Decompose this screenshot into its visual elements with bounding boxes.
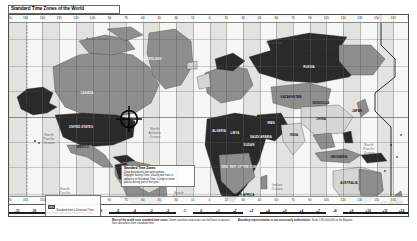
utc-offset-8: -3 bbox=[150, 205, 153, 216]
longitude-tick-top-23: 165 bbox=[391, 15, 396, 22]
longitude-tick-top-1: 165 bbox=[23, 15, 28, 22]
longitude-tick-bottom-24: 180 bbox=[407, 197, 409, 204]
utc-offset-23: +12 bbox=[399, 205, 405, 216]
utc-offset-0: -11 bbox=[15, 205, 20, 216]
utc-offset-10: -1 bbox=[183, 205, 186, 216]
longitude-tick-bottom-8: 60 bbox=[141, 197, 145, 204]
longitude-tick-top-10: 30 bbox=[174, 15, 178, 22]
longitude-tick-top-8: 60 bbox=[141, 15, 145, 22]
utc-offset-16: +5 bbox=[283, 205, 287, 216]
longitude-tick-bottom-6: 90 bbox=[107, 197, 111, 204]
longitude-tick-top-18: 90 bbox=[308, 15, 312, 22]
longitude-tick-bottom-20: 120 bbox=[340, 197, 345, 204]
longitude-tick-top-5: 105 bbox=[90, 15, 95, 22]
longitude-tick-bottom-22: 150 bbox=[374, 197, 379, 204]
legend-swatch-box: Standard time = Universal Time bbox=[45, 195, 101, 217]
longitude-tick-top-11: 15 bbox=[191, 15, 195, 22]
map-legend: Standard Time Zones Zone boundaries are … bbox=[121, 165, 195, 187]
footnote-right: Boundary representation is not necessari… bbox=[238, 219, 368, 222]
utc-offset-15: +4 bbox=[266, 205, 270, 216]
longitude-tick-bottom-23: 165 bbox=[391, 197, 396, 204]
longitude-tick-top-7: 75 bbox=[124, 15, 128, 22]
longitude-tick-top-14: 30 bbox=[241, 15, 245, 22]
utc-offset-13: +2 bbox=[233, 205, 237, 216]
longitude-tick-top-15: 45 bbox=[258, 15, 262, 22]
world-map[interactable]: Arctic OceanNorth Pacific OceanNorth Atl… bbox=[8, 14, 409, 217]
longitude-tick-top-16: 60 bbox=[275, 15, 279, 22]
international-date-line-icon bbox=[9, 15, 409, 217]
footnote-left: Most of the world uses standard time zon… bbox=[112, 219, 232, 226]
longitude-tick-bottom-11: 15 bbox=[191, 197, 195, 204]
legend-line-3: places during part of the year. bbox=[124, 181, 192, 184]
footnote-right-text: Scale 1:85,000,000 at the Equator. bbox=[312, 219, 353, 222]
longitude-tick-bottom-21: 135 bbox=[357, 197, 362, 204]
utc-offset-14: +3 bbox=[249, 205, 253, 216]
longitude-tick-bottom-0: 180 bbox=[8, 197, 12, 204]
longitude-ticks-top: 1801651501351201059075604530150153045607… bbox=[9, 15, 408, 23]
page-title: Standard Time Zones of the World bbox=[11, 7, 84, 12]
longitude-tick-top-19: 105 bbox=[324, 15, 329, 22]
longitude-tick-top-2: 150 bbox=[40, 15, 45, 22]
longitude-tick-top-24: 180 bbox=[407, 15, 409, 22]
utc-offset-17: +6 bbox=[299, 205, 303, 216]
longitude-tick-top-21: 135 bbox=[357, 15, 362, 22]
utc-offset-12: +1 bbox=[216, 205, 220, 216]
footnote-right-bold: Boundary representation is not necessari… bbox=[238, 219, 311, 222]
legend-swatch-icon bbox=[48, 205, 55, 209]
utc-offset-18: +7 bbox=[316, 205, 320, 216]
longitude-tick-bottom-15: 45 bbox=[258, 197, 262, 204]
crosshair-marker[interactable] bbox=[116, 106, 142, 132]
longitude-tick-top-12: 0 bbox=[209, 15, 211, 22]
longitude-tick-top-20: 120 bbox=[340, 15, 345, 22]
longitude-tick-top-22: 150 bbox=[374, 15, 379, 22]
longitude-tick-top-9: 45 bbox=[158, 15, 162, 22]
utc-offset-21: +10 bbox=[365, 205, 371, 216]
longitude-tick-bottom-13: 15 bbox=[224, 197, 228, 204]
utc-offset-6: -5 bbox=[116, 205, 119, 216]
legend-swatch-caption: Standard time = Universal Time bbox=[56, 209, 94, 212]
longitude-tick-bottom-18: 90 bbox=[308, 197, 312, 204]
longitude-tick-top-6: 90 bbox=[107, 15, 111, 22]
utc-offset-11: 0 bbox=[200, 205, 202, 216]
longitude-tick-bottom-12: 0 bbox=[209, 197, 211, 204]
longitude-tick-top-0: 180 bbox=[8, 15, 12, 22]
longitude-tick-bottom-19: 105 bbox=[324, 197, 329, 204]
longitude-tick-top-17: 75 bbox=[291, 15, 295, 22]
longitude-tick-bottom-1: 165 bbox=[23, 197, 28, 204]
longitude-tick-top-3: 135 bbox=[56, 15, 61, 22]
longitude-tick-bottom-14: 30 bbox=[241, 197, 245, 204]
screenshot-root: Standard Time Zones of the World bbox=[0, 0, 417, 241]
utc-offset-19: +8 bbox=[333, 205, 337, 216]
utc-offset-9: -2 bbox=[166, 205, 169, 216]
utc-offset-7: -4 bbox=[133, 205, 136, 216]
longitude-tick-bottom-16: 60 bbox=[275, 197, 279, 204]
longitude-tick-bottom-7: 75 bbox=[124, 197, 128, 204]
utc-offset-1: -10 bbox=[32, 205, 37, 216]
longitude-tick-bottom-17: 75 bbox=[291, 197, 295, 204]
utc-offset-22: +11 bbox=[382, 205, 388, 216]
longitude-tick-top-4: 120 bbox=[73, 15, 78, 22]
map-title-bar: Standard Time Zones of the World bbox=[8, 5, 120, 14]
utc-offset-20: +9 bbox=[350, 205, 354, 216]
longitude-tick-bottom-9: 45 bbox=[158, 197, 162, 204]
longitude-tick-top-13: 15 bbox=[224, 15, 228, 22]
longitude-tick-bottom-10: 30 bbox=[174, 197, 178, 204]
